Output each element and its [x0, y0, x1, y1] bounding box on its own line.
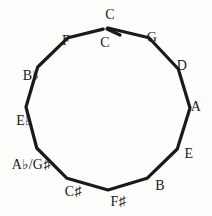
- note-label-a: A: [191, 100, 201, 114]
- note-label-c-outer: C: [105, 8, 115, 22]
- note-label-e-flat: E♭: [16, 114, 32, 128]
- circle-of-fifths-figure: C C G D A E B F♯ C♯ A♭/G♯ E♭ B♭ F: [0, 0, 212, 216]
- note-label-b-flat: B♭: [23, 69, 39, 83]
- note-label-d: D: [177, 59, 187, 73]
- circle-of-fifths-polygon: [0, 0, 212, 216]
- note-label-b: B: [155, 179, 165, 193]
- note-label-e: E: [185, 147, 194, 161]
- note-label-f: F: [62, 34, 70, 48]
- note-label-c-sharp: C♯: [65, 185, 82, 199]
- note-label-g: G: [147, 31, 157, 45]
- note-label-f-sharp: F♯: [110, 195, 125, 209]
- note-label-a-flat-g-sharp: A♭/G♯: [12, 158, 51, 172]
- note-label-c-inner: C: [100, 36, 110, 50]
